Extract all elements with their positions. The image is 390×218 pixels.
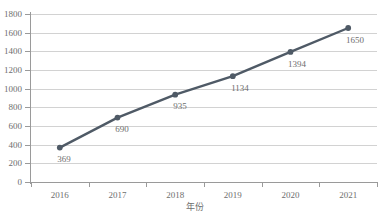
data-label-2016: 369 <box>57 154 71 164</box>
data-point-marker <box>230 73 236 79</box>
line-chart: 1800 1600 1400 1200 1000 800 600 400 200… <box>0 0 390 218</box>
data-point-marker <box>172 92 178 98</box>
data-label-2019: 1134 <box>231 83 249 93</box>
data-label-2020: 1394 <box>288 59 306 69</box>
data-label-2021: 1650 <box>346 35 364 45</box>
series-layer <box>0 0 390 218</box>
series-line <box>60 28 348 148</box>
data-point-marker <box>115 115 121 121</box>
data-label-2018: 935 <box>173 101 187 111</box>
data-point-marker <box>57 145 63 151</box>
data-label-2017: 690 <box>115 124 129 134</box>
data-point-marker <box>345 25 351 31</box>
data-point-marker <box>288 49 294 55</box>
